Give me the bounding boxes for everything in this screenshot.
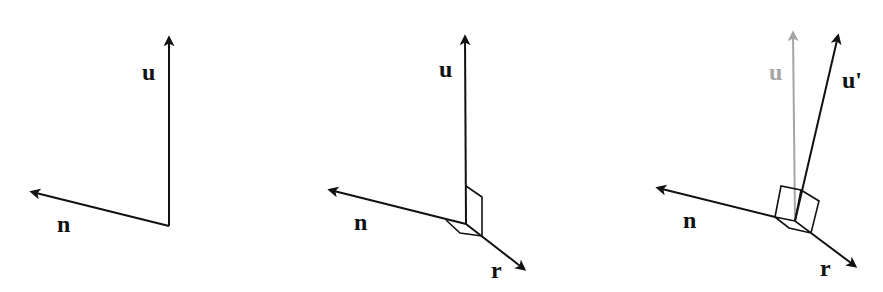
r-label: r	[491, 257, 502, 283]
n-label: n	[57, 211, 70, 237]
right-angle-box	[775, 186, 819, 233]
n-axis-arrow	[658, 188, 775, 217]
n-axis-arrow	[32, 192, 169, 226]
r-axis-arrow	[811, 233, 855, 266]
r-label: r	[820, 255, 831, 281]
right-angle-marker-n-r	[446, 220, 482, 236]
camera-axes-diagram: u n u n r u u' n r	[0, 0, 883, 292]
n-axis-arrow	[330, 190, 466, 224]
rotated-u-label: u'	[842, 67, 862, 93]
u-axis-arrow	[465, 37, 466, 224]
original-u-axis-arrow	[793, 33, 795, 221]
panel-2: u n r	[330, 37, 524, 283]
u-label: u	[439, 56, 452, 82]
panel-3: u u' n r	[658, 33, 862, 281]
panel-1: u n	[32, 38, 169, 237]
original-u-label: u	[769, 59, 782, 85]
n-label: n	[354, 209, 367, 235]
right-angle-marker-u-r	[466, 186, 482, 236]
n-label: n	[683, 207, 696, 233]
rotated-u-axis-arrow	[795, 36, 838, 221]
u-label: u	[142, 59, 155, 85]
